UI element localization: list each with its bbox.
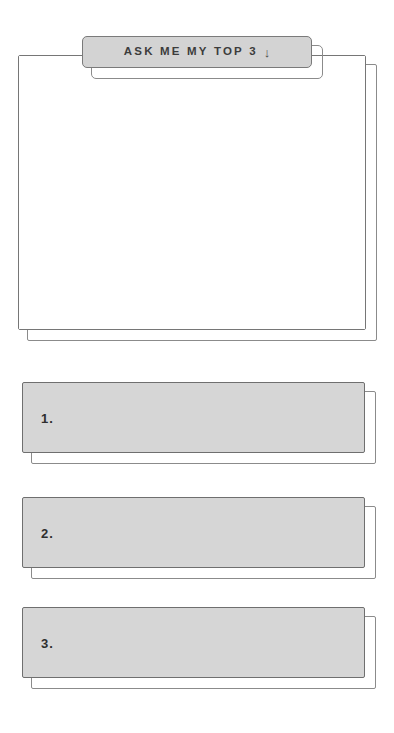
- answer-bar-input-1[interactable]: [23, 383, 364, 452]
- answer-bar-group-3: 3.: [0, 607, 394, 697]
- answer-bar-input-2[interactable]: [23, 498, 364, 567]
- answer-bar-1[interactable]: 1.: [22, 382, 365, 453]
- note-card-group: ASK ME MY TOP 3 ↓: [0, 0, 394, 350]
- answer-bar-3[interactable]: 3.: [22, 607, 365, 678]
- worksheet-page: ASK ME MY TOP 3 ↓ 1. 2. 3.: [0, 0, 394, 733]
- note-card-body[interactable]: [19, 56, 365, 329]
- answer-bar-2[interactable]: 2.: [22, 497, 365, 568]
- arrow-down-icon: ↓: [264, 46, 271, 59]
- answer-bar-group-1: 1.: [0, 382, 394, 472]
- header-tab-label: ASK ME MY TOP 3: [124, 46, 258, 58]
- header-tab[interactable]: ASK ME MY TOP 3 ↓: [82, 36, 312, 68]
- answer-bar-input-3[interactable]: [23, 608, 364, 677]
- answer-bar-group-2: 2.: [0, 497, 394, 587]
- note-card[interactable]: [18, 55, 366, 330]
